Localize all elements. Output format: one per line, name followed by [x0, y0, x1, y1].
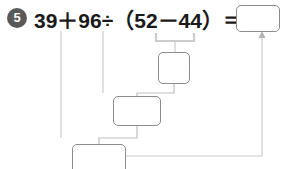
plus-operator: ＋ — [57, 9, 78, 32]
right-paren: ） — [202, 9, 223, 32]
problem-number-badge: 5 — [7, 8, 27, 28]
left-paren: （ — [113, 9, 134, 32]
math-expression: 39＋96÷（52－44）＝ — [34, 4, 244, 34]
operand-39: 39 — [34, 9, 57, 32]
step1-box[interactable] — [158, 52, 190, 84]
operand-96: 96 — [78, 9, 101, 32]
arrowhead-icon — [259, 31, 266, 38]
operand-52: 52 — [134, 9, 157, 32]
wire-step1-to-step2 — [137, 84, 174, 96]
wire-step2-to-step3 — [99, 126, 137, 144]
step3-box[interactable] — [72, 144, 126, 169]
minus-operator: － — [158, 9, 179, 32]
answer-box[interactable] — [236, 5, 280, 32]
divide-operator: ÷ — [102, 9, 114, 32]
operand-44: 44 — [179, 9, 202, 32]
worksheet-problem: 5 39＋96÷（52－44）＝ — [0, 0, 284, 169]
parenthesis-underbracket — [156, 33, 194, 41]
step2-box[interactable] — [113, 96, 161, 126]
